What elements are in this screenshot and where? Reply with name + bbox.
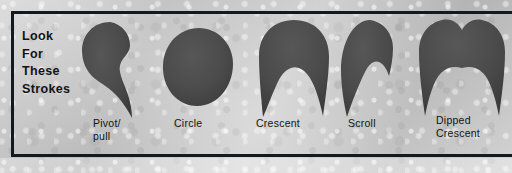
stroke-specimen-crescent: Crescent: [256, 14, 336, 154]
stroke-specimen-circle: Circle: [160, 14, 244, 154]
stroke-label-line-1: Pivot/: [93, 117, 121, 130]
stroke-label-crescent: Crescent: [256, 117, 300, 130]
stroke-label-line-2: Crescent: [436, 127, 480, 140]
stroke-label-dipped-crescent: Dipped Crescent: [436, 114, 480, 139]
caption-line-1: Look: [22, 28, 84, 46]
stroke-specimen-dipped-crescent: Dipped Crescent: [416, 14, 512, 154]
pivot-pull-stroke-icon: [80, 20, 138, 120]
scanned-page-background: Look For These Strokes: [0, 0, 512, 173]
stroke-label-line-1: Crescent: [256, 117, 300, 130]
circle-stroke-icon: [160, 26, 236, 110]
stroke-specimen-pivot-pull: Pivot/ pull: [80, 14, 158, 154]
dipped-crescent-stroke-icon: [416, 16, 508, 120]
figure-caption: Look For These Strokes: [22, 28, 84, 98]
stroke-label-line-2: pull: [93, 130, 121, 143]
scroll-stroke-icon: [338, 18, 398, 120]
stroke-label-line-1: Circle: [174, 117, 202, 130]
caption-line-4: Strokes: [22, 81, 84, 99]
stroke-label-pivot-pull: Pivot/ pull: [93, 117, 121, 142]
caption-line-2: For: [22, 46, 84, 64]
crescent-stroke-icon: [256, 18, 332, 120]
stroke-label-scroll: Scroll: [348, 117, 376, 130]
stroke-label-line-1: Scroll: [348, 117, 376, 130]
stroke-specimen-row: Pivot/ pull Circle: [80, 14, 512, 154]
stroke-label-circle: Circle: [174, 117, 202, 130]
caption-line-3: These: [22, 63, 84, 81]
stroke-specimen-scroll: Scroll: [338, 14, 408, 154]
stroke-label-line-1: Dipped: [436, 114, 480, 127]
